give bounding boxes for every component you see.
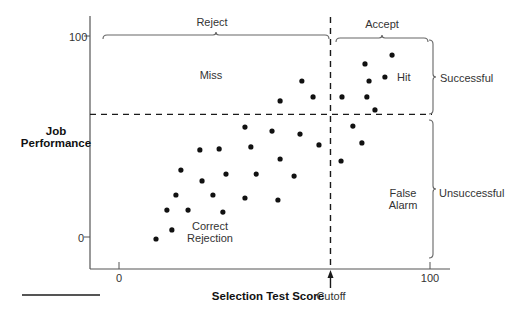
data-point: [364, 94, 369, 99]
y-tick-0: 0: [78, 232, 84, 244]
x-tick-100: 100: [421, 272, 439, 284]
data-point: [153, 236, 158, 241]
y-axis-label-line2: Performance: [21, 137, 91, 149]
data-point: [223, 171, 228, 176]
data-point: [242, 124, 247, 129]
data-point: [277, 156, 282, 161]
data-point: [169, 227, 174, 232]
accept-brace: [336, 35, 428, 42]
braces: [103, 32, 436, 258]
data-point: [339, 94, 344, 99]
axes: [84, 16, 450, 269]
unsuccessful-brace: [429, 120, 436, 258]
data-point: [173, 192, 178, 197]
reject-label: Reject: [196, 16, 227, 28]
data-point: [185, 207, 190, 212]
data-point: [382, 74, 387, 79]
data-point: [242, 195, 247, 200]
data-point: [291, 173, 296, 178]
data-point: [389, 52, 394, 57]
data-point: [277, 98, 282, 103]
correct-rejection-label-line1: Correct: [192, 220, 228, 232]
correct-rejection-label-line2: Rejection: [187, 232, 233, 244]
x-axis-label: Selection Test Score: [212, 290, 324, 302]
cutoff-arrow-icon: [327, 270, 333, 288]
data-point: [210, 192, 215, 197]
data-points: [153, 52, 394, 241]
data-point: [269, 128, 274, 133]
y-axis-label-line1: Job: [46, 125, 66, 137]
data-point: [197, 147, 202, 152]
data-point: [297, 131, 302, 136]
data-point: [299, 78, 304, 83]
cutoff-label: Cutoff: [316, 290, 345, 302]
data-point: [359, 140, 364, 145]
data-point: [362, 61, 367, 66]
false-alarm-label-line2: Alarm: [389, 199, 418, 211]
scatter-plot: [0, 0, 523, 313]
cutoff-arrow-head: [327, 270, 333, 278]
data-point: [248, 144, 253, 149]
data-point: [254, 171, 259, 176]
data-point: [316, 142, 321, 147]
data-point: [275, 197, 280, 202]
data-point: [310, 94, 315, 99]
data-point: [366, 78, 371, 83]
data-point: [220, 209, 225, 214]
data-point: [164, 207, 169, 212]
data-point: [372, 107, 377, 112]
successful-brace: [429, 40, 436, 114]
data-point: [178, 167, 183, 172]
footnote-rule: [22, 294, 100, 296]
data-point: [199, 178, 204, 183]
data-point: [350, 123, 355, 128]
data-point: [338, 158, 343, 163]
hit-label: Hit: [397, 71, 410, 83]
accept-label: Accept: [365, 18, 399, 30]
miss-label: Miss: [200, 69, 223, 81]
threshold-lines: [90, 17, 432, 268]
y-tick-100: 100: [69, 31, 87, 43]
successful-label: Successful: [440, 72, 493, 84]
false-alarm-label-line1: False: [390, 187, 417, 199]
x-tick-0: 0: [116, 272, 122, 284]
reject-brace: [103, 32, 329, 39]
unsuccessful-label: Unsuccessful: [439, 187, 504, 199]
data-point: [217, 146, 222, 151]
selection-decision-diagram: Reject Accept Miss Hit Successful Unsucc…: [0, 0, 523, 313]
